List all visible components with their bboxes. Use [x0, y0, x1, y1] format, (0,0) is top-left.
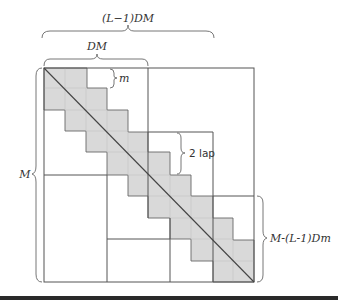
left-span-brace: [32, 68, 42, 282]
top-span-brace: [42, 25, 214, 38]
dm-span-brace: [44, 54, 148, 66]
overlap-label: 2 lap: [189, 147, 215, 159]
right-span-label: M-(L-1)Dm: [269, 232, 331, 245]
left-span-label: M: [18, 168, 31, 181]
right-span-brace: [257, 196, 267, 282]
m-span-label: m: [119, 72, 129, 85]
overlap-brace: [177, 133, 185, 174]
bottom-rule: [0, 296, 338, 300]
top-span-label: (L−1)DM: [102, 12, 155, 25]
m-span-brace: [110, 69, 117, 88]
dm-span-label: DM: [86, 40, 108, 53]
diagonal-band-diagram: (L−1)DM DM m 2 lap M M-(L-1)Dm: [0, 0, 338, 300]
